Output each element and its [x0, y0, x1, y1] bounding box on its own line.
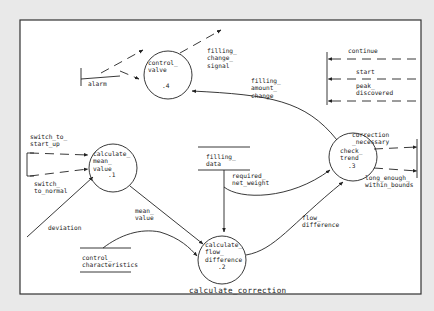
- flow-label-filling-amount-change: filling_ amount_ change: [251, 77, 281, 99]
- flow-label-deviation: deviation: [48, 224, 82, 231]
- diagram-stage: control_ valve .4 calculate_ mean_ value…: [0, 0, 434, 311]
- process-control-valve-number: .4: [162, 82, 169, 89]
- flow-label-correction-necessary: correction _necessary: [352, 131, 389, 146]
- flow-label-continue: continue: [348, 47, 378, 54]
- process-calculate-mean-value-label: calculate_ mean_ value: [93, 150, 130, 172]
- flow-label-switch-to-start-up: switch_to_ start_up: [30, 133, 67, 148]
- process-check-trend-number: .3: [348, 162, 355, 169]
- process-check-trend-label: check_ trend: [340, 147, 362, 162]
- flow-label-alarm: alarm: [88, 80, 107, 87]
- flow-label-filling-change-signal: filling_ change_ signal: [207, 47, 237, 69]
- process-calculate-flow-difference-label: calculate_ flow_ difference: [205, 241, 242, 263]
- flow-label-mean-value: mean_ value: [135, 207, 154, 222]
- flow-label-flow-difference: flow_ difference: [302, 214, 339, 229]
- flow-label-peak-discovered: peak_ discovered: [356, 82, 393, 97]
- process-control-valve-label: control_ valve: [148, 59, 178, 74]
- flow-label-required-net-weight: required_ net_weight: [232, 172, 269, 187]
- store-control-characteristics-label: control_ characteristics: [82, 254, 138, 269]
- store-filling-data-label: filling_ data: [206, 153, 236, 168]
- flow-label-long-enough-within-bounds: long_enough_ within_bounds: [365, 174, 413, 189]
- process-calculate-mean-value-number: .1: [108, 171, 115, 178]
- flow-label-switch-to-normal: switch_ to_normal: [34, 180, 68, 195]
- flow-label-start: start: [356, 68, 375, 75]
- process-calculate-flow-difference-number: .2: [218, 263, 225, 270]
- diagram-title: calculate_correction: [189, 287, 286, 294]
